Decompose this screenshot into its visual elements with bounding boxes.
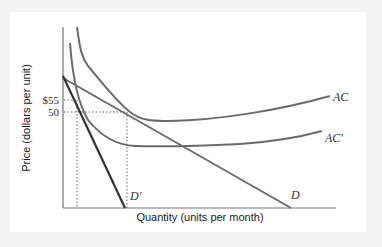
ac-prime-curve [70, 43, 322, 146]
y-tick-55: $55 [43, 94, 60, 106]
y-tick-50: 50 [48, 106, 60, 118]
chart: $55 50 AC AC' D D' Quantity (units per m… [0, 0, 382, 247]
ac-prime-label: AC' [324, 131, 343, 145]
x-axis-label: Quantity (units per month) [136, 211, 263, 223]
y-axis-label: Price (dollars per unit) [20, 64, 32, 172]
d-label: D [290, 188, 300, 202]
d-prime-label: D' [129, 189, 142, 203]
ac-label: AC [332, 90, 349, 104]
